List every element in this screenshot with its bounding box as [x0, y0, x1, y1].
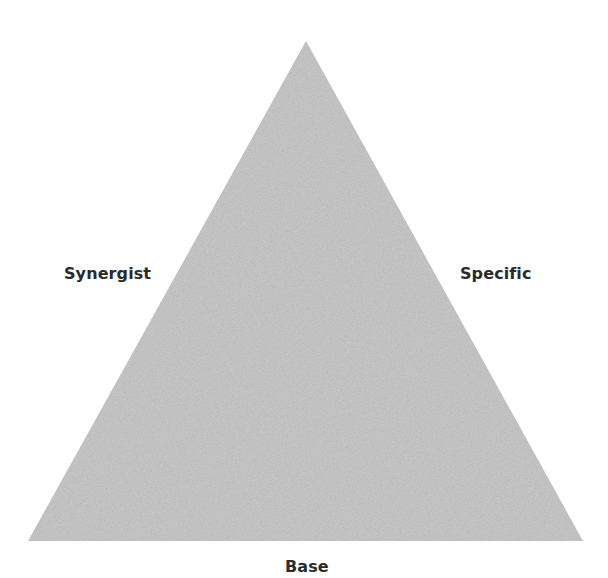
base-label: Base	[285, 557, 329, 577]
triangle-diagram: Synergist Specific Base	[0, 0, 608, 578]
triangle-shape	[0, 0, 608, 578]
triangle-polygon	[28, 41, 583, 541]
specific-label: Specific	[460, 264, 532, 284]
synergist-label: Synergist	[64, 264, 151, 284]
